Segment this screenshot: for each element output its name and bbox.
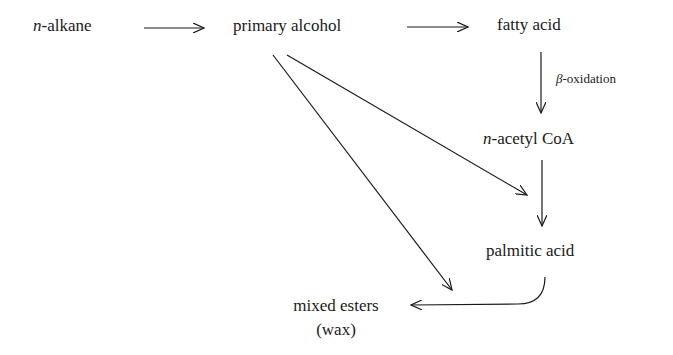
edge-label-text: -oxidation: [562, 71, 615, 86]
node-palmitic-acid: palmitic acid: [486, 242, 574, 259]
arrow-palmitic-acid-to-mixed-esters: [411, 277, 545, 305]
node-primary-alcohol: primary alcohol: [233, 17, 341, 34]
node-n-alkane: n-alkane: [33, 17, 92, 34]
arrow-alcohol-to-mixed-esters: [273, 55, 452, 290]
node-n-acetyl-coa: n-acetyl CoA: [483, 130, 574, 147]
edge-label-beta-oxidation: β-oxidation: [556, 72, 616, 85]
node-label: -acetyl CoA: [492, 129, 575, 148]
node-label: primary alcohol: [233, 16, 341, 35]
n-prefix: n: [33, 16, 42, 35]
node-label: fatty acid: [497, 15, 561, 34]
node-label: -alkane: [42, 16, 92, 35]
n-prefix: n: [483, 129, 492, 148]
arrow-alcohol-to-palmitic-acid: [287, 55, 527, 195]
node-label-line2: (wax): [276, 321, 396, 338]
node-mixed-esters: mixed esters (wax): [276, 297, 396, 338]
node-label-line1: mixed esters: [276, 297, 396, 314]
node-fatty-acid: fatty acid: [497, 16, 561, 33]
node-label: palmitic acid: [486, 241, 574, 260]
